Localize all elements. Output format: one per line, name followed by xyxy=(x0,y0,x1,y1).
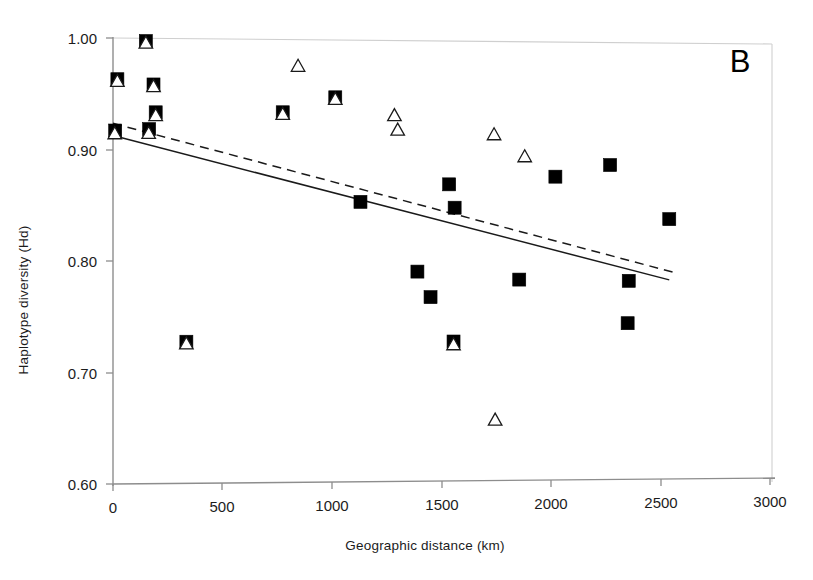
x-axis: 0 500 1000 1500 2000 2500 3000 Geographi… xyxy=(109,478,787,553)
figure-panel-b: 1.00 0.90 0.80 0.70 0.60 Haplotype diver… xyxy=(0,0,813,580)
solid-regression-line xyxy=(113,136,669,280)
data-point-square xyxy=(622,274,635,287)
scatter-plot: 1.00 0.90 0.80 0.70 0.60 Haplotype diver… xyxy=(0,0,813,580)
data-markers xyxy=(108,35,676,426)
data-point-square xyxy=(411,265,424,278)
x-axis-ticks xyxy=(113,478,770,491)
y-tick-label-0.80: 0.80 xyxy=(68,253,97,270)
x-tick-label-2000: 2000 xyxy=(534,495,567,512)
x-tick-label-500: 500 xyxy=(209,498,234,515)
y-tick-label-1.00: 1.00 xyxy=(68,30,97,47)
data-point-square xyxy=(354,195,367,208)
data-point-square xyxy=(549,170,562,183)
data-point-square xyxy=(621,317,634,330)
data-point-triangle xyxy=(388,109,402,121)
data-point-triangle xyxy=(487,128,501,140)
data-point-square xyxy=(443,178,456,191)
y-axis-ticks xyxy=(106,38,113,484)
y-tick-label-0.90: 0.90 xyxy=(68,142,97,159)
data-point-square xyxy=(448,201,461,214)
dashed-regression-line xyxy=(113,123,673,272)
x-tick-label-1000: 1000 xyxy=(315,497,348,514)
x-tick-label-0: 0 xyxy=(109,499,117,516)
trend-lines xyxy=(113,123,673,280)
data-point-triangle xyxy=(291,59,305,71)
data-point-square xyxy=(513,273,526,286)
x-tick-label-2500: 2500 xyxy=(644,494,677,511)
data-point-square xyxy=(663,213,676,226)
plot-frame xyxy=(113,38,772,482)
data-point-square xyxy=(604,159,617,172)
x-axis-title: Geographic distance (km) xyxy=(345,538,504,553)
data-point-triangle xyxy=(488,413,502,425)
frame-top-line xyxy=(113,38,772,44)
data-point-triangle xyxy=(391,123,405,135)
x-tick-label-3000: 3000 xyxy=(753,493,786,510)
x-tick-label-1500: 1500 xyxy=(425,496,458,513)
data-point-triangle xyxy=(518,150,532,162)
panel-label: B xyxy=(730,44,751,79)
y-tick-label-0.60: 0.60 xyxy=(68,476,97,493)
y-tick-label-0.70: 0.70 xyxy=(68,365,97,382)
x-axis-line xyxy=(113,478,775,484)
y-axis-title: Haplotype diversity (Hd) xyxy=(16,226,31,375)
data-point-square xyxy=(424,291,437,304)
y-axis: 1.00 0.90 0.80 0.70 0.60 Haplotype diver… xyxy=(16,30,113,493)
